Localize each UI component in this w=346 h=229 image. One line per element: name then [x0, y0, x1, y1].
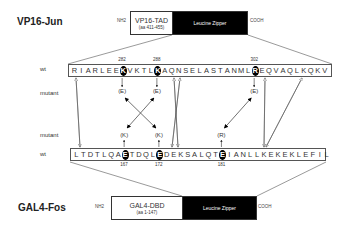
- interaction-arrow-302-181: [238, 98, 251, 113]
- jun-residue-number: 288: [153, 57, 161, 62]
- jun-mutant-residue: (E): [250, 88, 258, 94]
- fos-residue-number: 172: [155, 162, 163, 167]
- fos-mutant-residue: (K): [155, 132, 163, 138]
- jun-residue-number: 282: [118, 57, 126, 62]
- fos-residue-number: 181: [218, 162, 226, 167]
- interaction-arrow-288-167: [127, 113, 140, 128]
- top-zoom-line-right: [248, 35, 332, 64]
- fos-mutant-residue: (K): [120, 132, 128, 138]
- contact-arrow-5b: [266, 78, 302, 147]
- interaction-arrow-282-172: [141, 113, 156, 128]
- connector-lines: [0, 0, 346, 229]
- bottom-zoom-line-right: [257, 162, 326, 196]
- interaction-arrow-288-167: [141, 98, 154, 113]
- jun-residue-number: 302: [250, 57, 258, 62]
- contact-arrow-4b: [264, 78, 265, 147]
- bottom-zoom-line-left: [70, 162, 182, 196]
- interaction-arrow-302-181: [224, 113, 237, 128]
- jun-mutant-residue: (E): [118, 88, 126, 94]
- contact-arrow-3b: [172, 78, 180, 147]
- interaction-arrow-282-172: [125, 98, 140, 113]
- fos-residue-number: 167: [120, 162, 128, 167]
- fos-mutant-residue: (R): [217, 132, 225, 138]
- contact-arrow-1b: [76, 78, 80, 147]
- jun-mutant-residue: (E): [153, 88, 161, 94]
